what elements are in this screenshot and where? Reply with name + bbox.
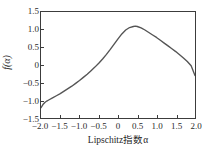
x-tickmark: [99, 115, 100, 118]
y-tickmark: [41, 47, 44, 48]
y-tick-label: −1.0: [5, 97, 39, 106]
x-tickmark: [138, 115, 139, 118]
x-tickmark: [118, 115, 119, 118]
data-series-line: [41, 26, 195, 108]
x-axis-title: Lipschitz指数α: [40, 135, 196, 146]
curve-svg: [41, 12, 195, 118]
y-tickmark: [41, 83, 44, 84]
y-tick-label: 1.0: [5, 25, 39, 34]
plot-area: [40, 11, 196, 119]
y-tickmark: [41, 65, 44, 66]
y-tickmark: [41, 101, 44, 102]
y-axis-title: f(α): [1, 38, 12, 88]
multifractal-spectrum-figure: 1.51.00.50−0.5−1.0−1.5 −2.0−1.5−1.0−0.50…: [0, 0, 205, 152]
x-tickmark: [60, 115, 61, 118]
y-tick-label: 1.5: [5, 7, 39, 16]
x-tickmark: [157, 115, 158, 118]
x-tickmark: [79, 115, 80, 118]
x-tickmark: [177, 115, 178, 118]
x-tick-label: 2.0: [183, 122, 205, 131]
y-tickmark: [41, 29, 44, 30]
